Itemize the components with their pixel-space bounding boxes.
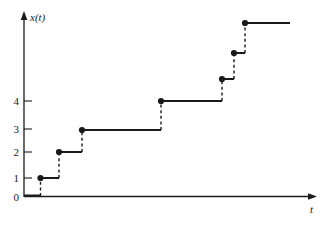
y-tick-label-0: 0 xyxy=(6,192,19,203)
step-vertical-jumps xyxy=(41,23,246,196)
x-axis-label: t xyxy=(310,204,313,215)
data-point-4 xyxy=(158,98,164,104)
plot-area xyxy=(0,0,335,225)
axes xyxy=(21,11,317,200)
data-point-7 xyxy=(242,20,248,26)
step-function-chart: 4 3 2 1 0 x(t) t xyxy=(0,0,335,225)
y-tick-label-2: 2 xyxy=(6,147,19,158)
step-horizontal-segments xyxy=(24,23,290,196)
y-tick-label-1: 1 xyxy=(6,173,19,184)
y-axis-label-text: x(t) xyxy=(30,11,45,23)
data-point-1 xyxy=(37,175,43,181)
x-axis-arrow-icon xyxy=(308,193,317,200)
y-axis-ticks xyxy=(24,101,32,178)
data-point-3 xyxy=(79,127,85,133)
y-axis-label: x(t) xyxy=(30,12,45,23)
data-point-5 xyxy=(219,76,225,82)
y-axis-arrow-icon xyxy=(21,11,28,20)
data-point-2 xyxy=(56,149,62,155)
y-tick-label-4: 4 xyxy=(6,96,19,107)
data-point-6 xyxy=(231,50,237,56)
step-curve xyxy=(24,20,290,196)
y-tick-label-3: 3 xyxy=(6,124,19,135)
